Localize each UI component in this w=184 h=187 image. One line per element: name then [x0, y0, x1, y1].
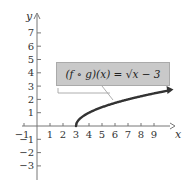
x-tick-label: 6: [112, 129, 118, 140]
curve-arrow-icon: [167, 86, 174, 94]
y-tick-label: 5: [28, 54, 34, 65]
x-tick-label: 8: [138, 129, 144, 140]
y-tick-label: 7: [28, 27, 34, 38]
x-tick-label: 9: [151, 129, 157, 140]
callout-underline: [58, 88, 110, 93]
y-tick-label: 1: [28, 107, 34, 118]
x-tick-label: 1: [47, 129, 53, 140]
function-curve: [76, 90, 169, 126]
y-tick-label: −3: [19, 160, 34, 171]
function-callout: (f ∘ g)(x) = √x − 3: [56, 62, 170, 86]
y-tick-label: 4: [28, 67, 34, 78]
y-tick-label: −2: [19, 147, 34, 158]
x-tick-label: 4: [86, 129, 92, 140]
x-axis-label: x: [175, 128, 182, 141]
x-tick-label: 3: [73, 129, 79, 140]
chart-canvas: −1123456789−3−2−11234567xy: [0, 0, 184, 187]
x-tick-label: 7: [125, 129, 131, 140]
x-tick-label: 5: [99, 129, 105, 140]
y-tick-label: −1: [19, 134, 34, 145]
x-tick-label: 2: [60, 129, 66, 140]
y-tick-label: 2: [28, 94, 34, 105]
callout-text: (f ∘ g)(x) = √x − 3: [66, 68, 161, 80]
y-tick-label: 6: [28, 41, 34, 52]
y-axis-label: y: [25, 10, 33, 23]
y-tick-label: 3: [28, 81, 34, 92]
